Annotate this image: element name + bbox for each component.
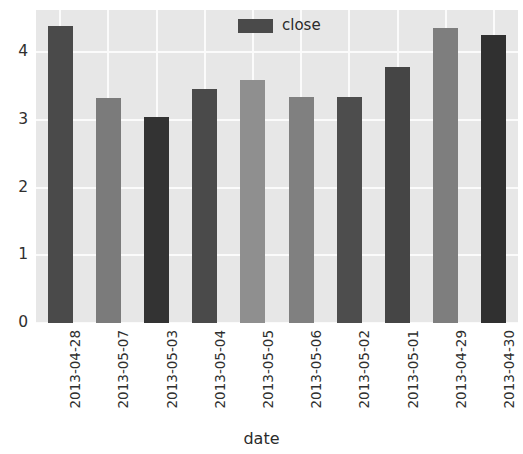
x-tick-2013-04-30: 2013-04-30 [501,330,517,408]
bar [192,89,217,323]
legend-label-close: close [282,18,321,33]
bar [96,98,121,323]
legend: close [238,18,321,33]
bars-layer [36,10,518,323]
x-tick-2013-04-29: 2013-04-29 [453,330,469,408]
bar [481,35,506,323]
legend-swatch-close [238,19,273,33]
y-tick-0: 0 [0,315,28,331]
y-tick-3: 3 [0,112,28,128]
bar [289,97,314,323]
bar [385,67,410,323]
x-tick-2013-05-01: 2013-05-01 [405,330,421,408]
x-tick-2013-05-04: 2013-05-04 [212,330,228,408]
x-tick-2013-05-05: 2013-05-05 [260,330,276,408]
x-tick-2013-05-03: 2013-05-03 [164,330,180,408]
x-tick-2013-04-28: 2013-04-28 [67,330,83,408]
plot-area [36,10,518,323]
bar [433,28,458,323]
y-tick-2: 2 [0,180,28,196]
bar [240,80,265,323]
bar [48,26,73,323]
y-tick-4: 4 [0,44,28,60]
x-axis-title: date [0,429,523,448]
bar [144,117,169,323]
x-tick-2013-05-02: 2013-05-02 [356,330,372,408]
bar [337,97,362,323]
y-tick-1: 1 [0,247,28,263]
x-tick-2013-05-06: 2013-05-06 [308,330,324,408]
bar-chart-figure: 01234 2013-04-282013-05-072013-05-032013… [0,0,523,454]
x-tick-2013-05-07: 2013-05-07 [115,330,131,408]
